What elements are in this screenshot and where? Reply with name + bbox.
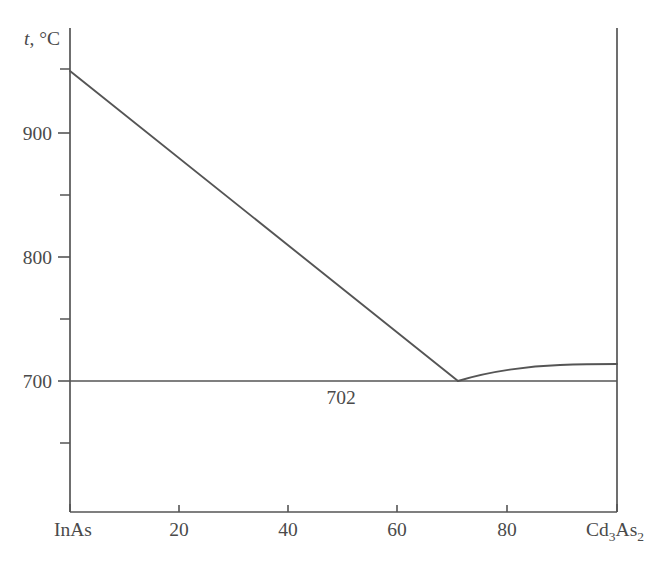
x-tick-label-60: 60 (387, 519, 407, 540)
phase-diagram-figure: 900 800 700 t, °C InAs 20 40 60 80 Cd3As… (0, 0, 662, 568)
x-tick-label-cd3as2: Cd3As2 (586, 519, 644, 544)
liquidus-cd3as2-branch (458, 364, 617, 381)
y-tick-label-700: 700 (23, 371, 52, 392)
y-axis-title-rest: , °C (29, 28, 60, 49)
y-tick-label-800: 800 (23, 247, 52, 268)
cd3as2-sub2: 2 (637, 529, 644, 544)
x-tick-label-20: 20 (169, 519, 189, 540)
cd3as2-as: As (616, 519, 638, 540)
eutectic-temperature-label: 702 (326, 387, 355, 408)
x-tick-label-80: 80 (497, 519, 517, 540)
cd3as2-cd: Cd (586, 519, 609, 540)
liquidus-inas-branch (70, 71, 458, 381)
phase-diagram-svg: 900 800 700 t, °C InAs 20 40 60 80 Cd3As… (0, 0, 662, 568)
x-tick-label-inas: InAs (54, 519, 92, 540)
x-tick-label-40: 40 (278, 519, 298, 540)
y-axis-title: t, °C (24, 28, 60, 49)
y-tick-label-900: 900 (23, 123, 52, 144)
